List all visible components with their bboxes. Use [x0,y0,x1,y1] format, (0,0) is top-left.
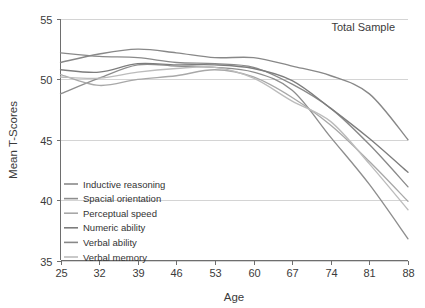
x-tick-label-74: 74 [325,267,337,279]
y-tick-label-50: 50 [40,74,52,86]
y-tick-label-40: 40 [40,195,52,207]
legend-label-verbal-ability: Verbal ability [83,237,137,248]
x-tick-label-67: 67 [286,267,298,279]
legend-label-spacial-orientation: Spacial orientation [83,193,161,204]
y-tick-label-35: 35 [40,256,52,268]
x-axis-title: Age [224,291,244,303]
x-tick-label-46: 46 [170,267,182,279]
chart-figure: 3540455055 25323946536067748188 Total Sa… [0,0,425,308]
line-chart-svg: 3540455055 25323946536067748188 Total Sa… [0,0,425,308]
x-tick-label-25: 25 [55,267,67,279]
sample-annotation: Total Sample [331,21,395,33]
legend-label-inductive-reasoning: Inductive reasoning [83,179,165,190]
y-axis-title: Mean T-Scores [7,101,19,179]
y-tick-label-45: 45 [40,135,52,147]
legend-label-perceptual-speed: Perceptual speed [83,208,157,219]
x-tick-label-60: 60 [248,267,260,279]
x-tick-label-32: 32 [93,267,105,279]
legend-label-verbal-memory: Verbal memory [83,252,147,263]
x-tick-label-53: 53 [209,267,221,279]
x-tick-label-88: 88 [402,267,414,279]
y-tick-label-55: 55 [40,14,52,26]
x-tick-label-39: 39 [132,267,144,279]
legend-label-numeric-ability: Numeric ability [83,222,146,233]
x-tick-label-81: 81 [363,267,375,279]
